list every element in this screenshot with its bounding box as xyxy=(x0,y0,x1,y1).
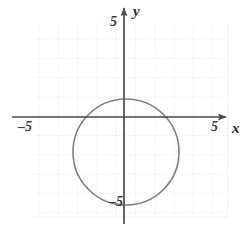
x-axis-label: x xyxy=(232,121,240,136)
y-axis-label: y xyxy=(133,4,140,19)
figure-coordinate-plane: y x 5 –5 5 –5 xyxy=(0,0,244,231)
x-axis-tick-label-negative-5: –5 xyxy=(18,120,32,134)
grid-lines xyxy=(35,24,228,217)
y-axis-tick-label-negative-5: –5 xyxy=(109,195,123,209)
y-axis-tick-label-positive-5: 5 xyxy=(110,15,117,29)
x-axis-tick-label-positive-5: 5 xyxy=(211,120,218,134)
